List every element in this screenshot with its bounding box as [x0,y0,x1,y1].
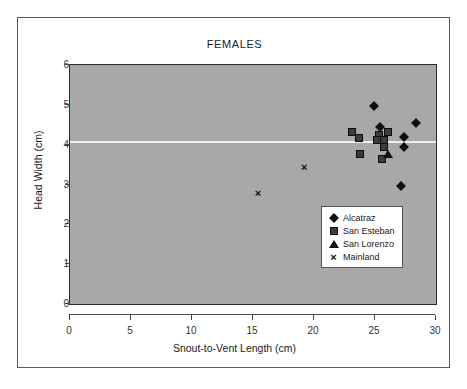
reference-line [70,141,436,143]
y-tick-mark [65,184,70,185]
chart-title: FEMALES [18,38,451,50]
data-point-san-esteban [380,143,388,151]
x-tick-mark [191,315,192,320]
x-axis-ticks: 051015202530 [69,315,435,341]
legend-swatch: × [327,250,340,263]
y-axis-ticks: 0123456 [40,64,69,303]
data-point-mainland: × [253,189,262,198]
data-point-san-esteban [384,128,392,136]
y-tick-mark [65,144,70,145]
x-tick-mark [435,315,436,320]
legend-label: San Lorenzo [343,239,394,249]
data-point-san-lorenzo [383,150,393,158]
data-point-alcatraz [412,118,422,128]
x-tick-mark [130,315,131,320]
x-tick-mark [252,315,253,320]
plot-area: ×× [69,64,437,305]
figure-frame: FEMALES ×× 0123456 051015202530 Head Wid… [17,17,450,368]
legend: AlcatrazSan EstebanSan Lorenzo×Mainland [321,206,403,268]
y-tick-mark [65,104,70,105]
x-tick-label: 15 [246,325,257,336]
legend-label: Alcatraz [343,213,376,223]
legend-item-san-esteban[interactable]: San Esteban [327,224,395,237]
x-tick-mark [69,315,70,320]
x-tick-label: 5 [127,325,133,336]
data-point-san-esteban [378,155,386,163]
y-axis-title: Head Width (cm) [32,80,44,260]
data-point-alcatraz [375,122,385,132]
data-point-san-esteban [356,150,364,158]
marker-cross: × [329,252,338,261]
y-tick-mark [65,263,70,264]
legend-label: Mainland [343,252,380,262]
legend-item-mainland[interactable]: ×Mainland [327,250,395,263]
data-point-san-esteban [375,131,383,139]
data-point-alcatraz [369,101,379,111]
data-point-alcatraz [396,182,406,192]
data-point-alcatraz [399,142,409,152]
data-point-san-esteban [348,128,356,136]
legend-swatch [327,237,340,250]
data-point-mainland: × [300,162,309,171]
legend-swatch [327,224,340,237]
x-tick-mark [374,315,375,320]
x-tick-label: 20 [307,325,318,336]
y-tick-mark [65,64,70,65]
marker-square [330,227,338,235]
legend-item-alcatraz[interactable]: Alcatraz [327,211,395,224]
y-tick-mark [65,223,70,224]
x-tick-label: 0 [66,325,72,336]
marker-triangle [329,240,339,248]
y-tick-mark [65,303,70,304]
x-tick-label: 10 [185,325,196,336]
legend-label: San Esteban [343,226,395,236]
x-tick-label: 30 [429,325,440,336]
legend-swatch [327,211,340,224]
marker-diamond [329,213,339,223]
x-axis-title: Snout-to-Vent Length (cm) [18,342,451,354]
legend-item-san-lorenzo[interactable]: San Lorenzo [327,237,395,250]
x-tick-label: 25 [368,325,379,336]
x-tick-mark [313,315,314,320]
